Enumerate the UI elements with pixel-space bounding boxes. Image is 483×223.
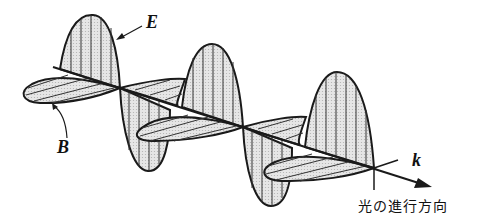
e-field-lobe (60, 15, 120, 88)
k-vector-label: k (412, 150, 421, 171)
em-wave-diagram: E B k 光の進行方向 (0, 0, 483, 223)
direction-caption: 光の進行方向 (358, 195, 448, 215)
arrow-head-icon (414, 178, 432, 188)
e-label-pointer (116, 26, 142, 40)
wave-drawing (0, 0, 483, 223)
e-field-lobe (305, 72, 374, 168)
e-field-label: E (146, 12, 158, 33)
b-label-pointer (52, 103, 67, 138)
b-field-label: B (57, 137, 69, 158)
e-field-lobe (182, 44, 243, 127)
